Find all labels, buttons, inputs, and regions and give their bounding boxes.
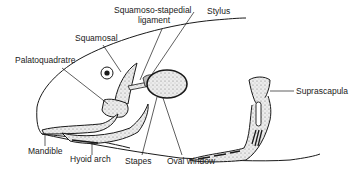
otic-capsule xyxy=(147,70,187,98)
leader-stapes xyxy=(142,97,157,155)
label-squamoso-stapedial-ligament-line2: ligament xyxy=(138,16,170,25)
palatoquadrate-bone xyxy=(102,99,128,117)
label-suprascapula: Suprascapula xyxy=(296,87,348,96)
label-hyoid-arch: Hyoid arch xyxy=(70,155,111,164)
label-stylus: Stylus xyxy=(207,7,230,16)
squamosal-bone xyxy=(115,63,137,104)
label-squamoso-stapedial-ligament-line1: Squamoso-stapedial xyxy=(114,6,192,15)
mandible-bone xyxy=(42,114,118,134)
label-mandible: Mandible xyxy=(28,147,63,156)
label-oval-window: Oval window xyxy=(167,157,215,166)
leader-oval-window xyxy=(163,98,182,155)
label-stapes: Stapes xyxy=(125,157,151,166)
label-squamosal: Squamosal xyxy=(75,34,118,43)
label-palatoquadrate: Palatoquadratre xyxy=(15,56,76,65)
